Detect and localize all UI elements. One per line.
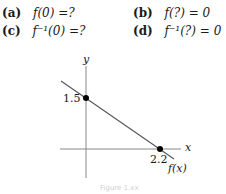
x-axis-label: x (185, 141, 192, 154)
function-graph: y x 1.5 2.2 f(x) (0, 0, 226, 194)
y-intercept-label: 1.5 (63, 92, 81, 105)
x-intercept-point (157, 146, 163, 152)
y-axis-label: y (82, 53, 90, 66)
curve-label: f(x) (167, 162, 187, 175)
x-intercept-label: 2.2 (150, 153, 168, 166)
y-intercept-point (83, 95, 89, 101)
figure-caption: Figure 1.xx (100, 184, 139, 192)
